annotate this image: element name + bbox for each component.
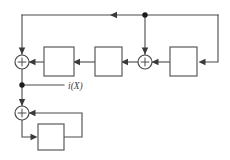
block-diagram: i(X) bbox=[0, 0, 230, 160]
junction-output-tap bbox=[19, 82, 24, 87]
arrow-into-block-4 bbox=[31, 134, 38, 140]
adder-bottom[interactable] bbox=[15, 106, 29, 120]
junction-top-feedback bbox=[142, 12, 147, 17]
wire-bottom-adder-to-block4 bbox=[22, 120, 31, 137]
adder-left-main[interactable] bbox=[15, 55, 29, 69]
arrow-top-bus-left bbox=[110, 12, 117, 18]
arrow-into-left-adder-top bbox=[19, 48, 25, 55]
block-2[interactable] bbox=[95, 47, 122, 76]
wire-right-riser bbox=[204, 15, 218, 62]
adder-mid-main[interactable] bbox=[138, 55, 152, 69]
arrow-into-bottom-adder-top bbox=[19, 99, 25, 106]
arrow-into-block-3 bbox=[199, 59, 206, 65]
signal-label-i-of-x: i(X) bbox=[68, 81, 83, 92]
block-4[interactable] bbox=[38, 124, 64, 150]
block-3[interactable] bbox=[170, 47, 197, 76]
block-1[interactable] bbox=[44, 47, 74, 76]
diagram-canvas: i(X) bbox=[0, 0, 230, 160]
arrow-into-mid-adder-top bbox=[142, 48, 148, 55]
